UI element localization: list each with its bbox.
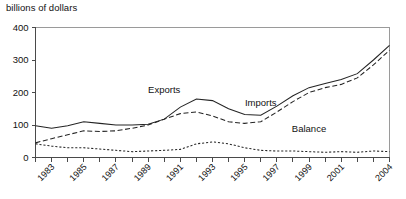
- x-tick-label: 1995: [228, 162, 249, 183]
- series-label-exports: Exports: [148, 84, 180, 95]
- y-tick-label: 200: [13, 87, 29, 98]
- plot-frame: [36, 28, 390, 158]
- y-axis-ticks: 0100200300400: [13, 22, 36, 163]
- line-chart-canvas: 0100200300400 19831985198719891991199319…: [0, 0, 406, 199]
- plot-border: [36, 28, 390, 158]
- x-tick-label: 1983: [35, 162, 56, 183]
- plot-axes: [36, 28, 390, 158]
- x-tick-label: 1991: [164, 162, 185, 183]
- data-series-group: [36, 45, 390, 152]
- x-tick-label: 2004: [373, 162, 394, 183]
- y-tick-label: 300: [13, 54, 29, 65]
- series-line-balance: [36, 142, 390, 152]
- y-tick-label: 100: [13, 119, 29, 130]
- x-tick-label: 1999: [293, 162, 314, 183]
- x-tick-label: 1997: [261, 162, 282, 183]
- x-tick-label: 1993: [196, 162, 217, 183]
- x-tick-label: 1985: [67, 162, 88, 183]
- series-line-imports: [36, 50, 390, 143]
- x-tick-label: 1987: [100, 162, 121, 183]
- y-tick-label: 0: [23, 152, 28, 163]
- x-tick-label: 2001: [325, 162, 346, 183]
- x-tick-label: 1989: [132, 162, 153, 183]
- y-tick-label: 400: [13, 22, 29, 33]
- x-axis-ticks: 1983198519871989199119931995199719992001…: [35, 158, 394, 184]
- series-label-balance: Balance: [292, 123, 326, 134]
- series-label-imports: Imports: [245, 97, 277, 108]
- chart-figure: billions of dollars 0100200300400 198319…: [0, 0, 406, 199]
- series-line-exports: [36, 45, 390, 128]
- series-annotation-group: ExportsImportsBalance: [148, 84, 326, 134]
